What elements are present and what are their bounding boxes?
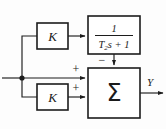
input-branch-node [19, 75, 24, 80]
block-diagram-svg: K 1 T2s + 1 K Σ − + + Y [0, 0, 166, 129]
gain-block-top-label: K [47, 29, 58, 44]
lower-branch-wire [22, 78, 37, 97]
block-diagram-canvas: K 1 T2s + 1 K Σ − + + Y [0, 0, 166, 129]
upper-branch-wire [22, 36, 37, 78]
output-signal-label: Y [147, 76, 155, 88]
denominator-rest: s + 1 [108, 39, 130, 50]
sign-positive-gain-bottom: + [73, 81, 80, 95]
sign-positive-direct: + [73, 62, 80, 76]
lag-filter-numerator: 1 [111, 23, 116, 34]
summing-block-label: Σ [106, 79, 121, 107]
gain-block-bottom-label: K [47, 90, 58, 105]
sign-negative-feedback: − [99, 53, 106, 67]
